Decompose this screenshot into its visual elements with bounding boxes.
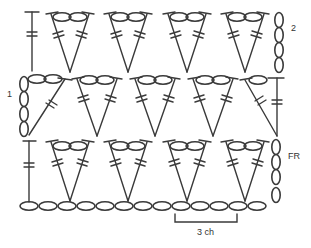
v-shell bbox=[221, 12, 269, 72]
row-2 bbox=[25, 12, 283, 73]
v-shell bbox=[163, 140, 211, 201]
half-shell bbox=[28, 75, 72, 135]
turning-chain bbox=[272, 140, 280, 203]
v-shell bbox=[163, 12, 211, 72]
v-shell bbox=[46, 12, 94, 72]
row-label-1: 1 bbox=[7, 89, 12, 99]
double-crochet-post bbox=[25, 12, 39, 71]
v-shell bbox=[104, 12, 152, 72]
row-label-fr: FR bbox=[288, 151, 300, 161]
turning-chain bbox=[20, 77, 28, 137]
repeat-bracket-label: 3 ch bbox=[197, 227, 214, 237]
repeat-bracket bbox=[175, 214, 237, 222]
row-label-2: 2 bbox=[291, 23, 296, 33]
row-foundation bbox=[23, 140, 280, 203]
double-crochet-post bbox=[23, 141, 36, 202]
turning-chain bbox=[275, 13, 283, 73]
foundation-chain bbox=[20, 202, 266, 210]
v-shell bbox=[46, 140, 94, 201]
half-shell bbox=[240, 76, 277, 136]
double-crochet-post bbox=[268, 78, 284, 136]
v-shell bbox=[188, 76, 238, 136]
row-1 bbox=[20, 75, 284, 137]
v-shell bbox=[221, 140, 269, 201]
v-shell bbox=[104, 140, 152, 201]
crochet-diagram: 2 1 FR 3 ch bbox=[0, 0, 311, 248]
v-shell bbox=[72, 76, 122, 136]
v-shell bbox=[130, 76, 180, 136]
